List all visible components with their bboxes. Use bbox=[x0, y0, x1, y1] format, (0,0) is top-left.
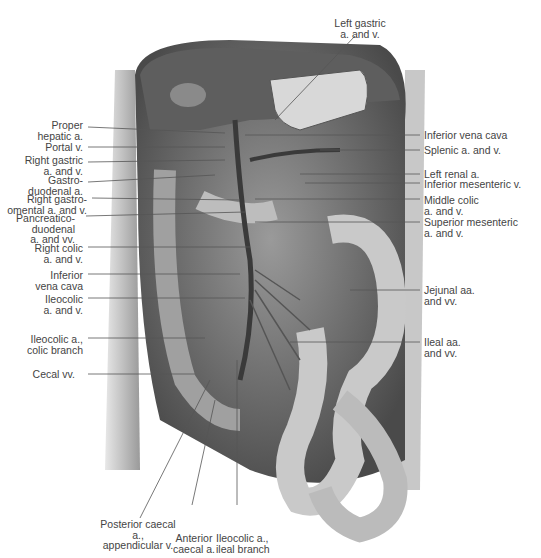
label-inferior-mesenteric: Inferior mesenteric v. bbox=[424, 179, 521, 190]
label-pancreaticoduodenal: Pancreatico- duodenal a. and vv. bbox=[16, 213, 75, 245]
label-splenic: Splenic a. and v. bbox=[424, 145, 501, 156]
label-right-gastric: Right gastric a. and v. bbox=[25, 155, 83, 176]
label-ileocolic-ileal-branch: Ileocolic a., ileal branch bbox=[216, 533, 270, 554]
label-inferior-vena-cava-left: Inferior vena cava bbox=[35, 270, 83, 291]
anatomy-figure: Proper hepatic a. Portal v. Right gastri… bbox=[0, 0, 541, 558]
label-superior-mesenteric: Superior mesenteric a. and v. bbox=[424, 217, 518, 238]
label-left-gastric: Left gastric a. and v. bbox=[325, 18, 395, 39]
gallbladder bbox=[170, 83, 206, 107]
label-inferior-vena-cava-right: Inferior vena cava bbox=[424, 130, 507, 141]
label-proper-hepatic: Proper hepatic a. bbox=[37, 120, 83, 141]
label-right-colic: Right colic a. and v. bbox=[35, 243, 83, 264]
label-posterior-caecal: Posterior caecal a., appendicular v. bbox=[98, 519, 178, 551]
label-ileocolic: Ileocolic a. and v. bbox=[44, 294, 84, 315]
label-middle-colic: Middle colic a. and v. bbox=[424, 195, 479, 216]
label-ileocolic-colic-branch: Ileocolic a., colic branch bbox=[27, 334, 83, 355]
label-jejunal: Jejunal aa. and vv. bbox=[424, 285, 475, 306]
abdominal-wall-left bbox=[105, 70, 140, 470]
label-ileal: Ileal aa. and vv. bbox=[424, 337, 461, 358]
label-anterior-caecal: Anterior caecal a. bbox=[172, 533, 216, 554]
label-portal-v: Portal v. bbox=[45, 142, 83, 153]
label-cecal-vv: Cecal vv. bbox=[33, 369, 75, 380]
